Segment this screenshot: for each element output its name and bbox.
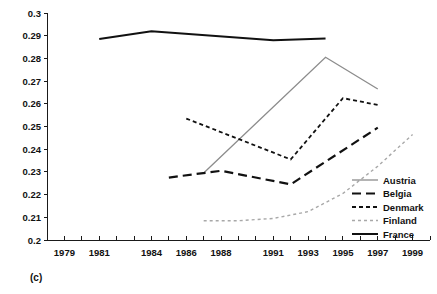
legend-label-france: France: [383, 229, 414, 240]
legend-label-denmark: Denmark: [383, 202, 424, 213]
x-tick-label: 1995: [332, 247, 354, 258]
x-tick-label: 1999: [402, 247, 423, 258]
y-tick-label: 0.23: [23, 166, 42, 177]
legend-label-finland: Finland: [383, 215, 417, 226]
y-tick-label: 0.24: [23, 144, 42, 155]
y-axis: 0.20.210.220.230.240.250.260.270.280.290…: [23, 8, 48, 246]
y-tick-label: 0.22: [23, 189, 42, 200]
line-chart-panel: 0.20.210.220.230.240.250.260.270.280.290…: [0, 0, 437, 294]
x-tick-label: 1993: [298, 247, 319, 258]
legend-label-belgia: Belgia: [383, 188, 412, 199]
x-tick-label: 1997: [367, 247, 388, 258]
chart-legend: AustriaBelgiaDenmarkFinlandFrance: [352, 175, 424, 240]
y-tick-label: 0.3: [28, 8, 41, 19]
x-tick-label: 1984: [141, 247, 163, 258]
series-lines: [99, 31, 412, 221]
series-line-finland: [204, 134, 413, 220]
x-tick-label: 1979: [54, 247, 75, 258]
series-line-austria: [204, 57, 378, 173]
y-tick-label: 0.2: [28, 235, 41, 246]
x-tick-label: 1988: [211, 247, 232, 258]
y-tick-label: 0.21: [23, 212, 42, 223]
x-axis: 1979198119841986198819911993199519971999: [47, 236, 430, 258]
y-tick-label: 0.29: [23, 30, 42, 41]
y-tick-label: 0.28: [23, 53, 42, 64]
x-tick-label: 1991: [263, 247, 285, 258]
legend-label-austria: Austria: [383, 175, 416, 186]
chart-canvas: 0.20.210.220.230.240.250.260.270.280.290…: [0, 0, 437, 294]
x-tick-label: 1986: [176, 247, 197, 258]
series-line-denmark: [186, 98, 377, 159]
series-line-france: [99, 31, 325, 40]
panel-label: (c): [30, 272, 42, 283]
series-line-belgia: [169, 128, 378, 185]
y-tick-label: 0.26: [23, 98, 42, 109]
y-tick-label: 0.25: [23, 121, 42, 132]
y-tick-label: 0.27: [23, 76, 42, 87]
x-tick-label: 1981: [89, 247, 111, 258]
